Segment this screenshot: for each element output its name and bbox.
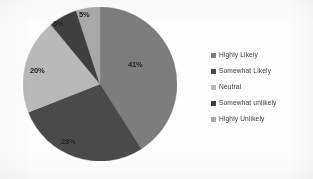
chart-legend: Highly LikelySomewhat LikelyNeutralSomew… xyxy=(211,47,311,127)
legend-item[interactable]: Highly Unlikely xyxy=(211,111,311,127)
pie-chart-plot-area: 41%28%20%6%5% xyxy=(23,7,177,161)
pie-data-label: 41% xyxy=(128,60,142,69)
pie-chart-figure: 41%28%20%6%5% Highly LikelySomewhat Like… xyxy=(0,0,313,179)
legend-item-label: Highly Likely xyxy=(219,52,258,59)
legend-square-icon xyxy=(211,53,216,58)
legend-square-icon xyxy=(211,117,216,122)
legend-item-label: Highly Unlikely xyxy=(219,116,265,123)
pie-chart-svg xyxy=(23,7,177,161)
legend-square-icon xyxy=(211,69,216,74)
pie-data-label: 20% xyxy=(30,66,44,75)
legend-item-label: Somewhat Likely xyxy=(219,68,271,75)
legend-square-icon xyxy=(211,85,216,90)
pie-data-label: 5% xyxy=(79,10,89,19)
pie-data-label: 28% xyxy=(61,137,75,146)
legend-item[interactable]: Somewhat unlikely xyxy=(211,95,311,111)
pie-slice-group xyxy=(23,7,177,161)
legend-item-label: Neutral xyxy=(219,84,241,91)
legend-item-label: Somewhat unlikely xyxy=(219,100,277,107)
legend-item[interactable]: Highly Likely xyxy=(211,47,311,63)
legend-item[interactable]: Neutral xyxy=(211,79,311,95)
legend-item[interactable]: Somewhat Likely xyxy=(211,63,311,79)
legend-square-icon xyxy=(211,101,216,106)
pie-data-label: 6% xyxy=(53,19,63,28)
